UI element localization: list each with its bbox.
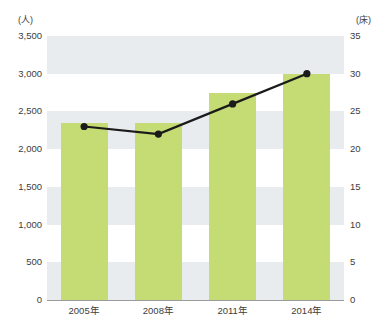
right-tick-35: 35 [350, 31, 361, 41]
line-marker-2008年 [155, 130, 162, 137]
right-tick-20: 20 [350, 144, 361, 154]
right-axis: 05101520253035 [350, 0, 377, 322]
left-tick-2500: 2,500 [18, 106, 42, 116]
x-tick-2014年: 2014年 [270, 303, 344, 317]
right-tick-5: 5 [350, 257, 355, 267]
left-tick-500: 500 [26, 257, 42, 267]
left-tick-1500: 1,500 [18, 182, 42, 192]
right-tick-25: 25 [350, 106, 361, 116]
line-marker-2011年 [229, 100, 236, 107]
line-marker-2005年 [81, 123, 88, 130]
right-tick-15: 15 [350, 182, 361, 192]
left-tick-1000: 1,000 [18, 220, 42, 230]
line-series [47, 36, 344, 300]
left-axis: 05001,0001,5002,0002,5003,0003,500 [0, 0, 42, 322]
left-tick-3500: 3,500 [18, 31, 42, 41]
x-tick-2008年: 2008年 [121, 303, 195, 317]
x-tick-2011年: 2011年 [196, 303, 270, 317]
plot-area [47, 36, 344, 300]
chart-container: (人) (床) 05001,0001,5002,0002,5003,0003,5… [0, 0, 377, 322]
left-tick-3000: 3,000 [18, 69, 42, 79]
right-tick-30: 30 [350, 69, 361, 79]
left-tick-0: 0 [37, 295, 42, 305]
right-tick-10: 10 [350, 220, 361, 230]
left-tick-2000: 2,000 [18, 144, 42, 154]
right-tick-0: 0 [350, 295, 355, 305]
line-marker-2014年 [303, 70, 310, 77]
x-axis: 2005年2008年2011年2014年 [47, 303, 344, 322]
line-path [84, 74, 307, 134]
x-tick-2005年: 2005年 [47, 303, 121, 317]
x-axis-line [47, 300, 344, 301]
